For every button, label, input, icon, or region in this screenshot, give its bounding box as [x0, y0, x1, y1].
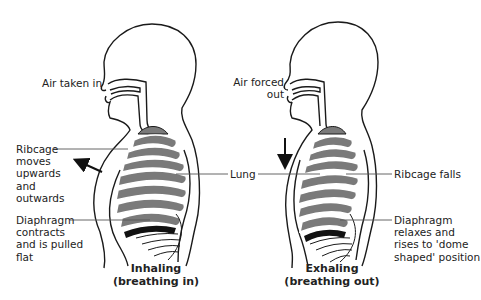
- inhaling-diaphragm: [124, 226, 176, 238]
- air-forced-line: Air forced: [232, 76, 284, 88]
- inhaling-caption: Inhaling (breathing in): [96, 262, 216, 288]
- air-forced-out-label: Air forced out: [232, 76, 284, 100]
- diaphragm-label-line: flat: [16, 251, 83, 263]
- diaphragm-contracts-label: Diaphragm contracts and is pulled flat: [16, 214, 83, 263]
- ribcage-moves-label: Ribcage moves upwards and outwards: [16, 143, 65, 204]
- exhaling-caption: Exhaling (breathing out): [272, 262, 392, 288]
- diaphragm-label-line: shaped' position: [394, 251, 480, 263]
- exhaling-subtitle: (breathing out): [272, 275, 392, 288]
- diaphragm-label-line: relaxes and: [394, 226, 480, 238]
- ribcage-label-line: and: [16, 180, 65, 192]
- air-out-line: out: [232, 88, 284, 100]
- ribcage-label-line: outwards: [16, 192, 65, 204]
- arrow-up-left-icon: [80, 162, 102, 172]
- diaphragm-label-line: Diaphragm: [394, 214, 480, 226]
- diaphragm-label-line: Diaphragm: [16, 214, 83, 226]
- diaphragm-label-line: contracts: [16, 226, 83, 238]
- diaphragm-label-line: rises to 'dome: [394, 238, 480, 250]
- inhaling-ribcage: [116, 127, 187, 261]
- exhaling-title: Exhaling: [272, 262, 392, 275]
- exhaling-ribcage: [298, 127, 359, 263]
- air-taken-in-label: Air taken in: [42, 77, 102, 89]
- ribcage-label-line: Ribcage: [16, 143, 65, 155]
- lung-label: Lung: [230, 168, 256, 180]
- ribcage-label-line: moves: [16, 155, 65, 167]
- diaphragm-relaxes-label: Diaphragm relaxes and rises to 'dome sha…: [394, 214, 480, 263]
- ribcage-label-line: upwards: [16, 167, 65, 179]
- inhaling-subtitle: (breathing in): [96, 275, 216, 288]
- diaphragm-label-line: and is pulled: [16, 238, 83, 250]
- inhaling-title: Inhaling: [96, 262, 216, 275]
- ribcage-falls-label: Ribcage falls: [394, 168, 461, 180]
- exhaling-diaphragm: [304, 230, 346, 242]
